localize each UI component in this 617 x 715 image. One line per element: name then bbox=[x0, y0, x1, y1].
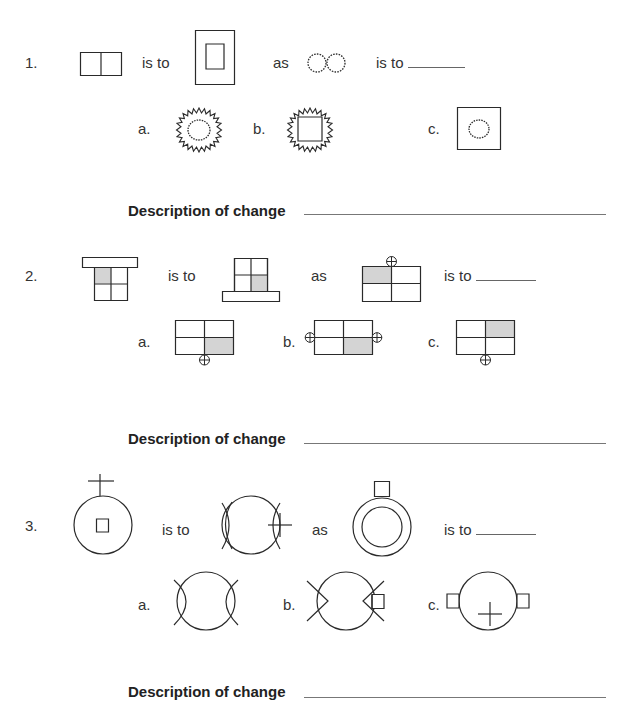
problem-2-description-label: Description of change bbox=[128, 430, 286, 447]
problem-3-option-c-figure[interactable] bbox=[445, 569, 531, 633]
problem-2-is-to-answer: is to bbox=[444, 267, 536, 284]
circled-cross-icon bbox=[372, 333, 382, 343]
problem-1-number: 1. bbox=[25, 54, 38, 71]
problem-2-option-b-label: b. bbox=[283, 333, 296, 350]
problem-3-is-to-answer: is to bbox=[444, 521, 536, 538]
problem-2-option-a-label: a. bbox=[138, 333, 151, 350]
problem-2-option-c-label: c. bbox=[428, 333, 440, 350]
problem-2-figure-c bbox=[362, 256, 422, 303]
problem-2-answer-blank[interactable] bbox=[476, 280, 536, 281]
problem-3-figure-a bbox=[72, 470, 134, 556]
problem-1-is-to: is to bbox=[142, 54, 170, 71]
problem-1-option-a-figure[interactable] bbox=[176, 107, 222, 153]
problem-2-description-line[interactable] bbox=[304, 443, 606, 444]
problem-2-option-b-figure[interactable] bbox=[305, 320, 381, 356]
circled-cross-icon bbox=[305, 333, 315, 343]
problem-1-figure-b bbox=[195, 30, 235, 86]
problem-3-is-to-2: is to bbox=[444, 521, 472, 538]
problem-3-description-label: Description of change bbox=[128, 683, 286, 700]
problem-2-is-to-2: is to bbox=[444, 267, 472, 284]
problem-2-option-c-figure[interactable] bbox=[456, 320, 516, 367]
problem-1-description-line[interactable] bbox=[304, 214, 606, 215]
problem-3-figure-b bbox=[218, 493, 298, 557]
circled-cross-icon bbox=[481, 355, 491, 365]
problem-3-is-to: is to bbox=[162, 521, 190, 538]
problem-3-number: 3. bbox=[25, 517, 38, 534]
problem-1-option-b-figure[interactable] bbox=[287, 107, 333, 153]
problem-2-figure-a bbox=[82, 257, 138, 301]
problem-2-option-a-figure[interactable] bbox=[175, 320, 235, 367]
problem-1-is-to-2: is to bbox=[376, 54, 404, 71]
problem-1-figure-a bbox=[80, 52, 122, 76]
problem-1-answer-blank[interactable] bbox=[408, 67, 465, 68]
circled-cross-icon bbox=[200, 355, 210, 365]
problem-2-number: 2. bbox=[25, 267, 38, 284]
problem-3-option-a-figure[interactable] bbox=[172, 569, 240, 633]
problem-3-option-a-label: a. bbox=[138, 596, 151, 613]
problem-3-answer-blank[interactable] bbox=[476, 534, 536, 535]
problem-1-description-label: Description of change bbox=[128, 202, 286, 219]
problem-1-option-c-figure[interactable] bbox=[457, 107, 501, 151]
problem-2-is-to: is to bbox=[168, 267, 196, 284]
problem-1-option-b-label: b. bbox=[253, 120, 266, 137]
problem-2-as: as bbox=[311, 267, 327, 284]
problem-2-figure-b bbox=[222, 258, 280, 303]
problem-1-figure-c bbox=[307, 51, 347, 75]
problem-3-description-line[interactable] bbox=[304, 697, 606, 698]
problem-3-figure-c bbox=[352, 481, 412, 557]
circled-cross-icon bbox=[387, 257, 397, 267]
problem-1-option-c-label: c. bbox=[428, 120, 440, 137]
problem-1-as: as bbox=[273, 54, 289, 71]
problem-1-is-to-answer: is to bbox=[376, 54, 465, 71]
problem-3-option-c-label: c. bbox=[428, 596, 440, 613]
problem-1-option-a-label: a. bbox=[138, 120, 151, 137]
problem-3-option-b-figure[interactable] bbox=[306, 569, 388, 633]
problem-3-option-b-label: b. bbox=[283, 596, 296, 613]
problem-3-as: as bbox=[312, 521, 328, 538]
